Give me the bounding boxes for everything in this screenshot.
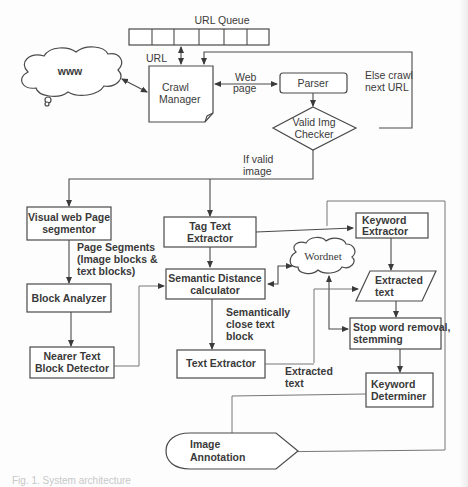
keyword-determiner-node: Keyword Determiner [366,373,433,407]
page-edge-shadow [458,0,468,487]
parser-node: Parser [280,73,347,93]
crawl-manager-line2: Manager [159,93,201,105]
stop-word-line1: Stop word removal, [353,321,451,333]
www-label: www [57,65,83,77]
valid-img-checker-node: Valid Img Checker [273,107,356,150]
figure-caption: Fig. 1. System architecture [12,475,131,486]
tag-text-line2: Extractor [187,232,233,244]
crawl-manager-node: Crawl Manager [149,66,213,122]
semantic-line2: calculator [190,284,240,296]
keyword-determiner-line1: Keyword [371,378,415,390]
segmentor-line1: Visual web Page [28,211,110,223]
keyword-determiner-line2: Determiner [371,390,426,402]
edge-label-extracted-1: Extracted [285,365,333,377]
stop-word-line2: stemming [353,333,403,345]
edge-label-url: URL [146,52,167,64]
edge-label-segments-2: (Image blocks & [77,253,158,265]
wordnet-cloud: Wordnet [290,237,355,273]
image-annotation-node: Image Annotation [166,433,298,469]
keyword-extractor-line2: Extractor [362,225,408,237]
checker-line1: Valid Img [293,116,336,128]
visual-segmentor-node: Visual web Page segmentor [27,207,111,240]
annotation-line1: Image [190,438,221,450]
edge-label-else-2: next URL [365,81,409,93]
nearer-line2: Block Detector [35,362,109,374]
wordnet-label: Wordnet [304,250,342,262]
text-extractor-label: Text Extractor [186,357,256,369]
text-extractor-node: Text Extractor [177,350,265,378]
annotation-line2: Annotation [190,451,245,463]
block-analyzer-label: Block Analyzer [32,292,107,304]
url-queue-label: URL Queue [194,14,249,26]
edge-label-if-valid-2: image [243,165,272,177]
block-analyzer-node: Block Analyzer [27,284,111,312]
keyword-extractor-node: Keyword Extractor [356,213,428,238]
parser-label: Parser [298,77,329,89]
crawl-manager-line1: Crawl [162,81,189,93]
checker-line2: Checker [294,128,334,140]
edge-label-semantic-1: Semantically [226,306,290,318]
edge-label-segments-1: Page Segments [77,241,155,253]
edge-label-if-valid-1: If valid [243,153,274,165]
edge-label-semantic-3: block [226,330,254,342]
edge-label-segments-3: text blocks) [77,265,135,277]
edge-label-extracted-2: text [285,377,304,389]
extracted-text-io-node: Extracted text [356,271,436,301]
semantic-line1: Semantic Distance [168,272,262,284]
nearer-line1: Nearer Text [43,350,101,362]
extracted-io-line2: text [375,286,394,298]
tag-text-extractor-node: Tag Text Extractor [164,217,256,247]
tag-text-line1: Tag Text [189,220,231,232]
url-queue: URL Queue [129,14,269,45]
semantic-distance-node: Semantic Distance calculator [166,269,265,299]
extracted-io-line1: Extracted [375,274,423,286]
edge-label-else-1: Else crawl [365,69,413,81]
diagram-svg: URL Queue www Crawl Manager URL Web page… [0,0,468,487]
segmentor-line2: segmentor [42,223,96,235]
nearer-text-detector-node: Nearer Text Block Detector [30,347,114,378]
stop-word-removal-node: Stop word removal, stemming [350,318,451,349]
edge-label-semantic-2: close text [226,318,275,330]
www-cloud: www [22,47,122,106]
architecture-diagram: URL Queue www Crawl Manager URL Web page… [0,0,468,487]
